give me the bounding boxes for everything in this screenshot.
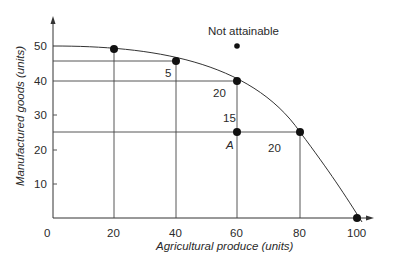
annotation-15: 15 <box>223 112 236 124</box>
annotation-5: 5 <box>165 67 171 79</box>
point-40-45 <box>172 57 180 65</box>
ppf-curve <box>53 46 362 222</box>
y-axis-title: Manufactured goods (units) <box>14 46 26 186</box>
x-tick-80: 80 <box>293 227 306 239</box>
x-axis-arrow-icon <box>366 216 374 221</box>
axes <box>53 22 368 218</box>
point-60-40 <box>233 77 241 85</box>
y-ticks <box>53 115 57 184</box>
y-tick-50: 50 <box>34 40 47 52</box>
x-axis-title: Agricultural produce (units) <box>155 240 294 252</box>
point-a-label: A <box>225 139 234 151</box>
y-tick-40: 40 <box>34 75 47 87</box>
data-points <box>110 43 361 222</box>
annotation-20-horizontal: 20 <box>268 142 281 154</box>
point-not-attainable <box>234 43 240 49</box>
y-tick-20: 20 <box>34 144 47 156</box>
point-20-49 <box>110 45 118 53</box>
x-tick-100: 100 <box>347 227 366 239</box>
guide-lines <box>53 49 300 218</box>
ppf-chart: 0 20 40 60 80 100 10 20 30 40 50 Agricul… <box>0 0 395 265</box>
not-attainable-label: Not attainable <box>208 25 279 37</box>
x-tick-20: 20 <box>107 227 120 239</box>
y-tick-30: 30 <box>34 109 47 121</box>
point-100-0 <box>353 214 361 222</box>
origin-label: 0 <box>44 227 50 239</box>
point-a <box>233 128 241 136</box>
point-80-25 <box>296 128 304 136</box>
annotation-20-vertical-drop: 20 <box>213 87 226 99</box>
y-tick-10: 10 <box>34 178 47 190</box>
x-tick-60: 60 <box>230 227 243 239</box>
x-tick-40: 40 <box>169 227 182 239</box>
y-axis-arrow-icon <box>51 16 56 24</box>
